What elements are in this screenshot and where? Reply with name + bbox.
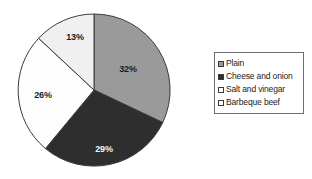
pie-chart-plot-area: 32% 29% 26% 13%: [17, 11, 171, 169]
legend-label-plain: Plain: [226, 57, 244, 70]
legend-swatch-icon-plain: [218, 61, 224, 67]
legend-item-plain[interactable]: Plain: [218, 57, 299, 70]
data-label-plain: 32%: [119, 64, 137, 74]
legend-label-salt-and-vinegar: Salt and vinegar: [226, 83, 285, 96]
legend-item-barbeque-beef[interactable]: Barbeque beef: [218, 96, 299, 109]
data-label-barbeque-beef: 13%: [66, 32, 84, 42]
legend-label-cheese-and-onion: Cheese and onion: [226, 70, 293, 83]
legend-item-salt-and-vinegar[interactable]: Salt and vinegar: [218, 83, 299, 96]
chart-legend: Plain Cheese and onion Salt and vinegar …: [214, 52, 304, 114]
legend-label-barbeque-beef: Barbeque beef: [226, 96, 280, 109]
legend-swatch-icon-barbeque-beef: [218, 100, 224, 106]
pie-chart-figure: 32% 29% 26% 13% Plain Cheese and onion S…: [0, 0, 312, 179]
pie-chart-svg: 32% 29% 26% 13%: [17, 11, 171, 169]
legend-item-cheese-and-onion[interactable]: Cheese and onion: [218, 70, 299, 83]
legend-swatch-icon-salt-and-vinegar: [218, 87, 224, 93]
legend-swatch-icon-cheese-and-onion: [218, 74, 224, 80]
data-label-salt-and-vinegar: 26%: [34, 90, 52, 100]
data-label-cheese-and-onion: 29%: [95, 144, 113, 154]
